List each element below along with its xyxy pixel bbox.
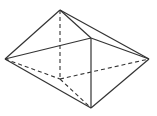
hidden-edge-back-right xyxy=(60,59,149,79)
edge-top-right xyxy=(60,10,149,59)
hidden-edge-left-back xyxy=(5,59,60,79)
edge-left-front xyxy=(5,38,91,59)
edge-top-left xyxy=(5,10,60,59)
edge-right-bottom xyxy=(91,59,149,108)
polyhedron-diagram xyxy=(0,0,157,116)
solid-edges xyxy=(5,10,149,108)
edge-front-right xyxy=(91,38,149,59)
edge-left-bottom xyxy=(5,59,91,108)
